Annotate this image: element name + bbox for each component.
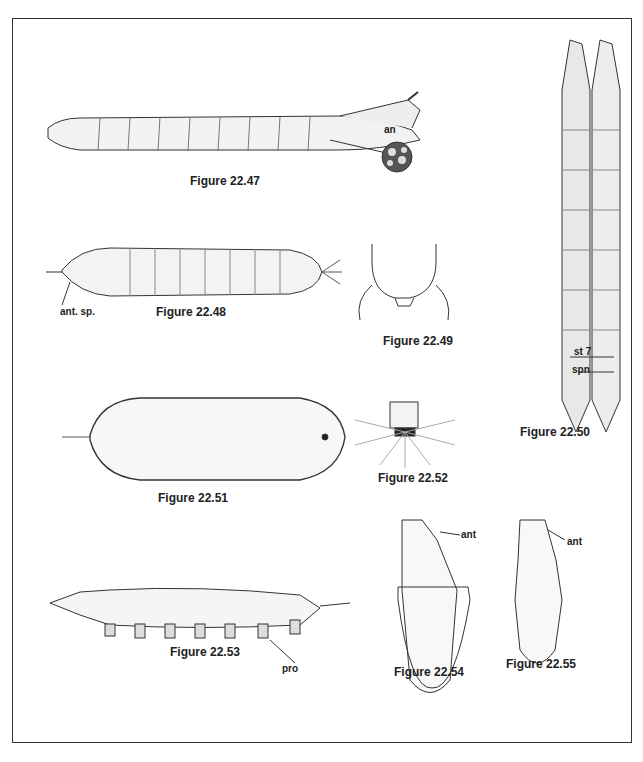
figure-22-49-head-drawing [359, 244, 449, 320]
label-ant-sp: ant. sp. [60, 306, 95, 317]
figure-22-52-head-drawing [355, 402, 455, 468]
figure-caption: Figure 22.51 [158, 491, 228, 505]
figure-22-50-larvae-drawing [562, 40, 620, 432]
plate-illustrations [0, 0, 643, 762]
figure-caption: Figure 22.50 [520, 425, 590, 439]
figure-22-48-larva-drawing [46, 248, 342, 305]
figure-22-47-larva-drawing [48, 92, 420, 172]
label-ant: ant [461, 529, 476, 540]
figure-caption: Figure 22.48 [156, 305, 226, 319]
label-an: an [384, 124, 396, 135]
label-spn: spn [572, 364, 590, 375]
figure-caption: Figure 22.53 [170, 645, 240, 659]
figure-caption: Figure 22.49 [383, 334, 453, 348]
label-st7: st 7 [574, 346, 591, 357]
figure-22-51-larva-drawing [62, 398, 345, 480]
figure-caption: Figure 22.55 [506, 657, 576, 671]
label-pro: pro [282, 663, 298, 674]
figure-22-55-head-drawing [515, 520, 565, 663]
label-ant: ant [567, 536, 582, 547]
figure-caption: Figure 22.54 [394, 665, 464, 679]
figure-caption: Figure 22.47 [190, 174, 260, 188]
figure-caption: Figure 22.52 [378, 471, 448, 485]
